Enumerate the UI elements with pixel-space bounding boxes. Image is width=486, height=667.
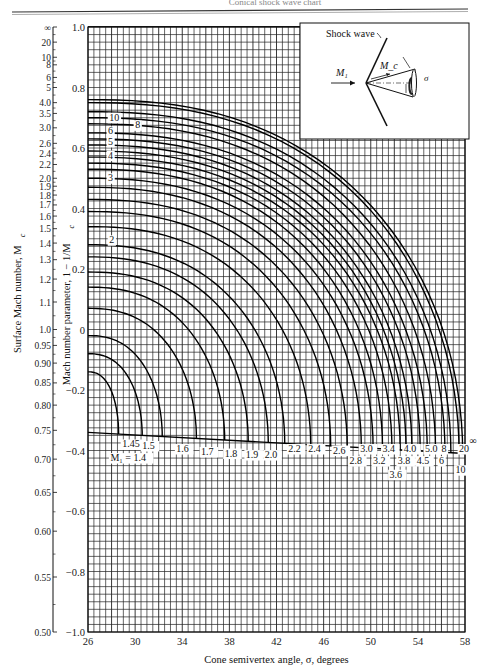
- curve-label: 1.7: [201, 446, 214, 457]
- m1-curve: [88, 372, 119, 434]
- x-tick-label: 26: [83, 636, 94, 647]
- svg-text:M₁: M₁: [335, 67, 348, 78]
- mc-tick-label: 0.85: [34, 378, 51, 388]
- y-tick-label: 0: [80, 325, 85, 336]
- curve-label: 1.8: [225, 448, 238, 459]
- curve-label: 2.0: [265, 449, 278, 460]
- y-tick-label: 0.2: [72, 264, 85, 275]
- curve-label: M₁ = 1.4: [110, 452, 146, 463]
- y-tick-label: −0.2: [66, 385, 85, 396]
- curve-label: 2.8: [350, 455, 363, 466]
- svg-text:Shock wave: Shock wave: [326, 28, 375, 39]
- m1-curve: [88, 308, 196, 438]
- x-tick-label: 54: [413, 636, 424, 647]
- svg-text:σ: σ: [424, 73, 429, 83]
- x-tick-label: 34: [177, 636, 188, 647]
- mc-tick-label: 0.65: [34, 488, 51, 498]
- y-tick-label: −0.4: [66, 446, 86, 457]
- svg-text:M_c: M_c: [379, 60, 398, 71]
- cone-diagram-inset: Shock waveM₁M_cσ: [88, 23, 469, 139]
- m1-curve: [88, 145, 412, 451]
- curve-label: 10: [109, 112, 119, 123]
- mc-tick-label: 8: [46, 60, 51, 70]
- mc-tick-label: 1.0: [39, 325, 51, 335]
- header-rule: [12, 9, 468, 15]
- curve-label: 4.5: [417, 455, 430, 466]
- mc-tick-label: 0.55: [34, 573, 51, 583]
- mc-tick-label: 0.80: [34, 401, 51, 411]
- mc-tick-label: 1.1: [39, 298, 51, 308]
- curve-label: 4: [108, 150, 113, 161]
- mc-tick-label: 2.6: [39, 139, 51, 149]
- curve-label: 3.2: [373, 455, 386, 466]
- y-tick-label: 1.0: [72, 22, 85, 33]
- mc-tick-label: 3.5: [39, 109, 51, 119]
- curve-label: 5.0: [425, 443, 438, 454]
- mc-tick-label: 0.90: [34, 359, 51, 369]
- curve-label: 2.2: [288, 443, 301, 454]
- curve-label: 10: [456, 464, 466, 475]
- y-tick-label: 0.4: [72, 204, 86, 215]
- x-axis-title: Cone semivertex angle, σ, degrees: [204, 654, 348, 665]
- m1-curve: [88, 354, 142, 436]
- curve-label: 1.6: [176, 443, 189, 454]
- svg-text:c: c: [67, 224, 76, 228]
- mc-tick-label: 4.0: [39, 98, 51, 108]
- mc-tick-label: 5: [46, 83, 51, 93]
- curve-label: 3.4: [383, 443, 396, 454]
- mc-tick-label: 0.50: [34, 628, 51, 638]
- mc-tick-label: 1.3: [39, 255, 51, 265]
- curve-label: 6: [108, 125, 113, 136]
- m1-curve: [88, 118, 445, 453]
- m1-curve: [88, 227, 311, 445]
- svg-text:c: c: [18, 233, 27, 237]
- mc-tick-label: 6: [46, 73, 51, 83]
- mc-tick-label: 3.0: [39, 123, 51, 133]
- inner-y-axis-title: Mach number parameter, 1 − 1/M: [61, 243, 72, 386]
- y-tick-label: −0.8: [66, 567, 85, 578]
- curve-label: 3.8: [398, 455, 411, 466]
- x-tick-label: 38: [224, 636, 235, 647]
- curve-label: 8: [135, 119, 140, 130]
- curve-label: 2.4: [308, 443, 321, 454]
- x-tick-label: 30: [130, 636, 141, 647]
- y-tick-label: −0.6: [66, 506, 85, 517]
- mc-tick-label: ∞: [44, 23, 51, 33]
- x-tick-label: 42: [271, 636, 282, 647]
- mc-tick-label: 0.75: [34, 426, 51, 436]
- m1-curve: [88, 178, 373, 448]
- mc-tick-label: 0.60: [34, 527, 51, 537]
- mc-tick-label: 2.2: [39, 160, 51, 170]
- svg-text:∞: ∞: [469, 435, 476, 446]
- curve-label: 2: [109, 234, 114, 245]
- curve-label: 1.45: [122, 438, 139, 449]
- curve-label: 5: [108, 136, 113, 147]
- curve-label: 8: [441, 443, 446, 454]
- x-tick-label: 58: [460, 636, 471, 647]
- mc-tick-label: 2.4: [39, 149, 51, 159]
- m1-curve: [88, 272, 248, 441]
- mc-tick-label: 1.7: [39, 200, 51, 210]
- mc-tick-label: 0.70: [34, 455, 51, 465]
- y-tick-label: 0.6: [72, 143, 85, 154]
- mc-tick-label: 1.5: [39, 224, 51, 234]
- outer-y-axis-title: Surface Mach number, M: [12, 245, 23, 353]
- mc-tick-label: 1.4: [39, 239, 51, 249]
- mc-tick-label: 1.6: [39, 212, 51, 222]
- mc-tick-label: 1.8: [39, 191, 51, 201]
- curve-label: 6: [439, 455, 444, 466]
- curve-label: 2.6: [333, 445, 346, 456]
- curve-label: 3: [108, 172, 113, 183]
- mc-tick-label: 0.95: [34, 341, 51, 351]
- y-tick-label: 0.8: [72, 83, 85, 94]
- mc-tick-label: 20: [42, 38, 52, 48]
- conical-shock-chart: Shock waveM₁M_cσ 10865432M₁ = 1.41.451.5…: [0, 0, 486, 667]
- curve-label: 1.5: [142, 440, 155, 451]
- curve-label: 3.0: [360, 443, 373, 454]
- x-tick-label: 50: [366, 636, 377, 647]
- mc-tick-label: 1.2: [39, 275, 51, 285]
- curve-label: 3.6: [390, 469, 403, 480]
- curve-label: 1.9: [246, 449, 259, 460]
- x-tick-label: 46: [318, 636, 329, 647]
- m1-curve: [88, 336, 162, 437]
